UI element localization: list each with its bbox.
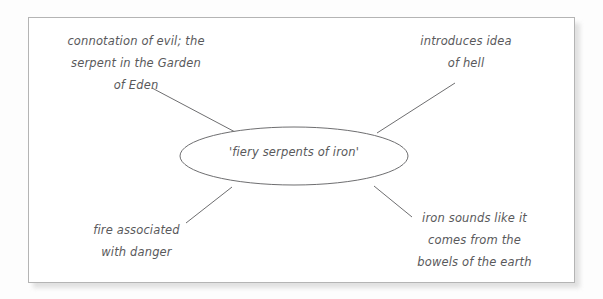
connector-top-right	[377, 83, 455, 133]
branch-label-top-right: introduces idea of hell	[386, 30, 546, 74]
diagram-canvas: 'fiery serpents of iron' connotation of …	[0, 0, 603, 299]
center-node-label: 'fiery serpents of iron'	[180, 144, 408, 160]
branch-label-bottom-right: iron sounds like it comes from the bowel…	[382, 207, 567, 273]
branch-label-top-left: connotation of evil; the serpent in the …	[46, 30, 226, 96]
branch-label-bottom-left: fire associated with danger	[54, 219, 219, 263]
connector-bottom-left	[186, 187, 232, 223]
